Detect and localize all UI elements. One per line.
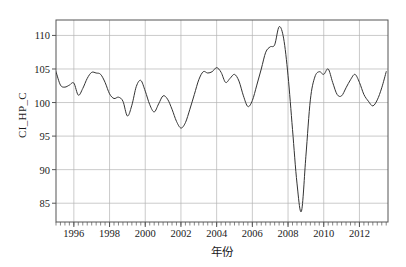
x-axis-minor-ticks [56, 222, 386, 226]
line-chart-svg [0, 0, 406, 267]
chart-container: 859095100105110 199619982000200220042006… [0, 0, 406, 267]
x-tick-label: 2002 [170, 228, 191, 239]
x-axis-major-ticks [74, 222, 360, 227]
x-tick-label: 2008 [278, 228, 299, 239]
y-axis-ticks [52, 35, 56, 203]
x-axis-title: 年份 [56, 243, 388, 259]
x-tick-label: 2004 [206, 228, 227, 239]
x-tick-label: 2010 [313, 228, 334, 239]
x-tick-label: 1998 [99, 228, 120, 239]
x-tick-label: 2000 [135, 228, 156, 239]
x-tick-label: 1996 [63, 228, 84, 239]
x-tick-label: 2006 [242, 228, 263, 239]
y-axis-title: CI_HP_C [16, 25, 28, 205]
plot-background [56, 20, 388, 222]
x-tick-label: 2012 [349, 228, 370, 239]
